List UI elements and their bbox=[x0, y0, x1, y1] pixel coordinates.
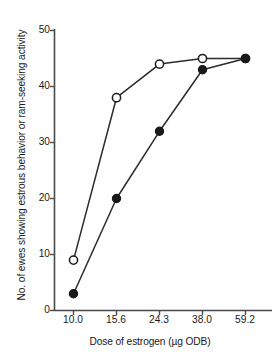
series-line-0 bbox=[74, 59, 246, 261]
data-point-open-circle-series-10.0 bbox=[69, 256, 77, 264]
y-axis-ticks bbox=[50, 31, 54, 311]
data-point-filled-circle-series-38.0 bbox=[198, 66, 206, 74]
plot-area bbox=[0, 0, 279, 360]
data-point-open-circle-series-15.6 bbox=[112, 94, 120, 102]
data-point-filled-circle-series-24.3 bbox=[155, 127, 163, 135]
data-point-filled-circle-series-10.0 bbox=[69, 290, 77, 298]
data-point-open-circle-series-24.3 bbox=[155, 60, 163, 68]
data-point-open-circle-series-38.0 bbox=[198, 54, 206, 62]
series-open-circle-series bbox=[69, 54, 249, 264]
series-line-1 bbox=[74, 59, 246, 294]
x-axis-ticks bbox=[74, 311, 246, 315]
data-point-filled-circle-series-59.2 bbox=[241, 54, 249, 62]
chart-figure: No. of ewes showing estrous behavior or … bbox=[0, 0, 279, 360]
data-point-filled-circle-series-15.6 bbox=[112, 194, 120, 202]
